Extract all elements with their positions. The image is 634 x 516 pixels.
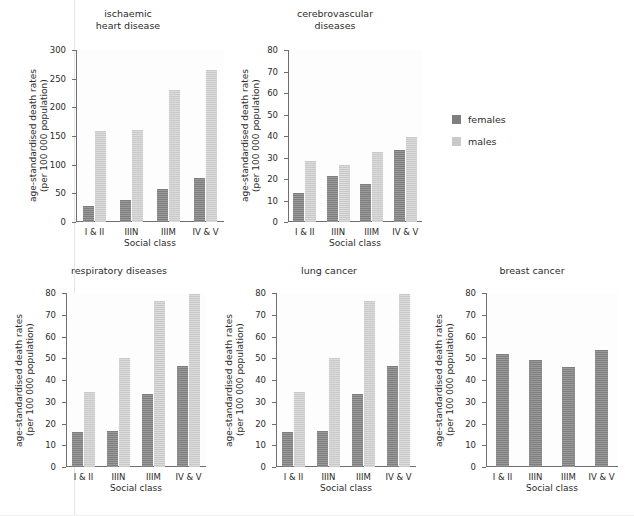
y-tick: 40 (62, 380, 66, 381)
y-tick: 0 (62, 467, 66, 468)
y-tick-label: 50 (45, 353, 56, 363)
y-tick: 20 (482, 424, 486, 425)
bar-males-i-ii (95, 131, 106, 222)
y-tick-label: 0 (471, 462, 476, 472)
y-tick-label: 70 (45, 310, 56, 320)
plot-area: 01020304050607080 I & IIIIINIIIMIV & V S… (486, 293, 618, 467)
x-tick-label: IV & V (192, 227, 218, 237)
y-tick-label: 80 (45, 288, 56, 298)
bar-females-iiin (529, 360, 542, 467)
y-tick: 70 (62, 315, 66, 316)
legend-swatch-females-icon (452, 115, 461, 124)
y-tick: 50 (272, 358, 276, 359)
y-tick: 200 (72, 107, 76, 108)
y-tick: 60 (62, 337, 66, 338)
bar-females-iiin (120, 200, 131, 222)
bar-females-iiin (107, 431, 118, 467)
y-tick: 40 (272, 380, 276, 381)
y-tick-label: 30 (45, 397, 56, 407)
y-tick-label: 60 (255, 332, 266, 342)
panel-respiratory-diseases: respiratory diseases age-standardised de… (14, 265, 224, 510)
plot-area: 050100150200250300 I & IIIIINIIIMIV & V … (76, 50, 224, 222)
y-tick: 30 (482, 402, 486, 403)
y-tick-label: 60 (267, 88, 278, 98)
x-tick-label: I & II (493, 472, 513, 482)
y-tick-label: 0 (51, 462, 56, 472)
bar-females-i-ii (83, 206, 94, 222)
y-tick: 0 (284, 222, 288, 223)
y-tick-label: 40 (465, 375, 476, 385)
panel-title: ischaemic heart disease (28, 8, 228, 31)
bar-females-iv-v (194, 178, 205, 222)
y-tick: 30 (62, 402, 66, 403)
y-tick: 50 (284, 115, 288, 116)
x-tick-label: I & II (74, 472, 94, 482)
y-axis-title: age-standardised death rates (per 100 00… (224, 291, 248, 469)
bar-females-i-ii (282, 432, 293, 467)
y-tick-label: 20 (255, 419, 266, 429)
bar-males-iiim (154, 301, 165, 467)
y-tick: 0 (72, 222, 76, 223)
y-tick-label: 30 (267, 153, 278, 163)
y-tick: 10 (272, 445, 276, 446)
figure-multi-panel-mortality-charts: ischaemic heart disease age-standardised… (0, 0, 634, 516)
y-axis-line (66, 293, 67, 467)
y-tick: 80 (62, 293, 66, 294)
y-tick: 50 (482, 358, 486, 359)
y-tick-label: 0 (261, 462, 266, 472)
x-tick-label: IIIN (331, 227, 345, 237)
y-tick-label: 70 (465, 310, 476, 320)
x-axis-title: Social class (526, 483, 578, 493)
y-tick: 50 (62, 358, 66, 359)
legend-swatch-males-icon (452, 137, 461, 146)
legend-item-males: males (452, 136, 506, 147)
bar-females-i-ii (496, 354, 509, 467)
bar-males-i-ii (294, 392, 305, 467)
bar-males-iiin (119, 358, 130, 467)
y-tick-label: 30 (255, 397, 266, 407)
x-tick-label: IIIN (322, 472, 336, 482)
panel-title: lung cancer (224, 265, 434, 277)
bar-males-iiim (372, 152, 383, 222)
x-tick-label: IIIM (364, 227, 379, 237)
x-tick-label: IIIN (112, 472, 126, 482)
y-tick-label: 50 (465, 353, 476, 363)
y-tick-label: 60 (45, 332, 56, 342)
bar-females-iiim (142, 394, 153, 467)
bar-males-iv-v (406, 137, 417, 222)
y-tick: 80 (272, 293, 276, 294)
bar-males-iv-v (189, 294, 200, 467)
y-tick-label: 20 (45, 419, 56, 429)
bar-females-i-ii (293, 193, 304, 222)
x-axis-title: Social class (110, 483, 162, 493)
y-tick-label: 20 (465, 419, 476, 429)
y-tick-label: 50 (255, 353, 266, 363)
y-tick-label: 10 (465, 440, 476, 450)
x-tick-label: IIIM (356, 472, 371, 482)
legend-item-females: females (452, 114, 506, 125)
y-tick: 40 (284, 136, 288, 137)
bar-males-iiim (169, 90, 180, 222)
y-tick-label: 80 (465, 288, 476, 298)
panel-lung-cancer: lung cancer age-standardised death rates… (224, 265, 434, 510)
bar-males-i-ii (305, 161, 316, 222)
x-tick-label: I & II (85, 227, 105, 237)
y-tick-label: 200 (50, 102, 66, 112)
bar-females-iv-v (177, 366, 188, 467)
y-tick: 10 (284, 201, 288, 202)
y-tick-label: 10 (267, 196, 278, 206)
bar-males-iiin (329, 358, 340, 467)
x-tick-label: I & II (295, 227, 315, 237)
bar-females-iiim (157, 189, 168, 222)
y-tick-label: 50 (55, 188, 66, 198)
y-axis-title: age-standardised death rates (per 100 00… (14, 291, 38, 469)
y-axis-title: age-standardised death rates (per 100 00… (28, 48, 52, 223)
y-tick-label: 70 (255, 310, 266, 320)
y-tick: 20 (272, 424, 276, 425)
x-axis-title: Social class (320, 483, 372, 493)
y-tick: 60 (284, 93, 288, 94)
panel-title: breast cancer (434, 265, 630, 277)
plot-area: 01020304050607080 I & IIIIINIIIMIV & V S… (288, 50, 422, 222)
y-tick: 80 (482, 293, 486, 294)
x-tick-label: IV & V (588, 472, 614, 482)
